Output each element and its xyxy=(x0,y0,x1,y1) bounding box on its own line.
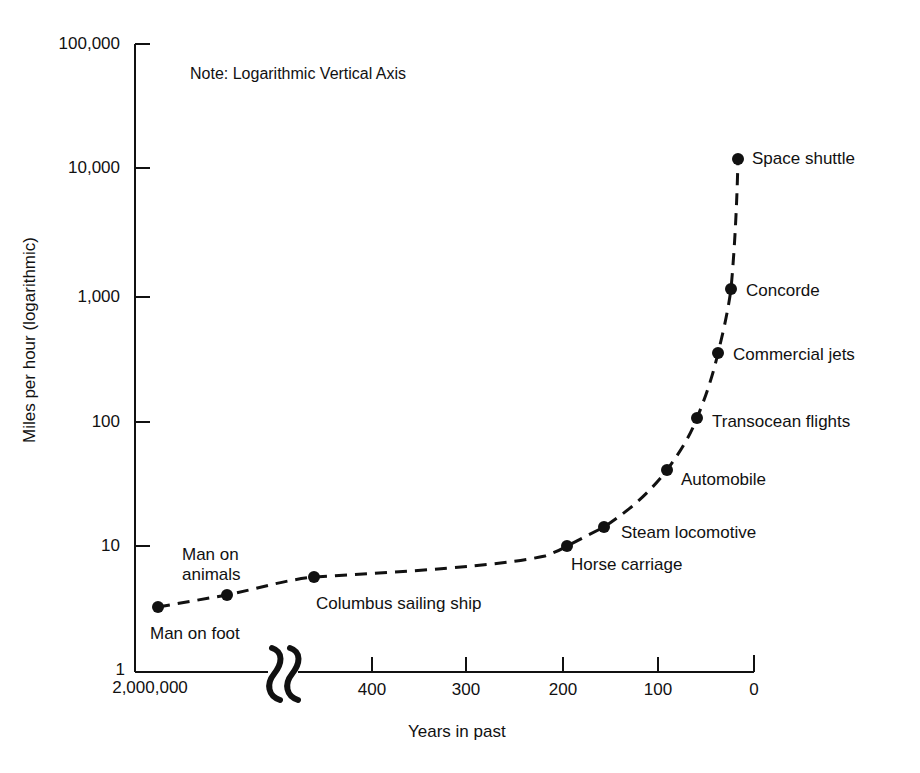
point-space-shuttle xyxy=(732,153,744,165)
point-concorde xyxy=(725,283,737,295)
point-label-man-on-animals-1: Man on xyxy=(182,545,239,565)
point-automobile xyxy=(661,464,673,476)
point-transocean xyxy=(691,412,703,424)
point-label-space-shuttle: Space shuttle xyxy=(752,149,855,169)
data-points xyxy=(152,153,744,613)
x-tick-label: 300 xyxy=(416,680,516,700)
chart-note: Note: Logarithmic Vertical Axis xyxy=(190,64,406,84)
point-label-horse-carriage: Horse carriage xyxy=(571,555,683,575)
x-axis-title: Years in past xyxy=(408,722,506,742)
point-commercial-jets xyxy=(712,347,724,359)
y-ticks xyxy=(135,44,150,546)
y-axis-title: Miles per hour (logarithmic) xyxy=(20,230,40,450)
point-label-columbus: Columbus sailing ship xyxy=(316,594,481,614)
point-label-man-on-foot: Man on foot xyxy=(150,624,240,644)
point-steam-locomotive xyxy=(598,521,610,533)
y-tick-label: 1 xyxy=(0,660,125,680)
point-horse-carriage xyxy=(561,540,573,552)
x-tick-label: 400 xyxy=(322,680,422,700)
point-label-man-on-animals-2: animals xyxy=(182,565,241,585)
point-man-on-animals xyxy=(221,589,233,601)
point-label-automobile: Automobile xyxy=(681,470,766,490)
point-label-steam-locomotive: Steam locomotive xyxy=(621,523,756,543)
y-tick-label: 100 xyxy=(0,412,120,432)
y-tick-label: 1,000 xyxy=(0,287,120,307)
point-man-on-foot xyxy=(152,601,164,613)
x-ticks xyxy=(372,655,754,672)
axis-break-icon xyxy=(269,648,298,700)
point-columbus xyxy=(308,571,320,583)
point-label-commercial-jets: Commercial jets xyxy=(733,345,855,365)
x-tick-label: 0 xyxy=(704,680,804,700)
x-tick-label: 200 xyxy=(513,680,613,700)
x-tick-label: 100 xyxy=(608,680,708,700)
y-tick-label: 10,000 xyxy=(0,158,120,178)
x-tick-label: 2,000,000 xyxy=(100,678,200,698)
point-label-concorde: Concorde xyxy=(746,281,820,301)
point-label-transocean: Transocean flights xyxy=(712,412,850,432)
chart-canvas xyxy=(0,0,920,773)
y-tick-label: 10 xyxy=(0,536,120,556)
y-tick-label: 100,000 xyxy=(0,34,120,54)
